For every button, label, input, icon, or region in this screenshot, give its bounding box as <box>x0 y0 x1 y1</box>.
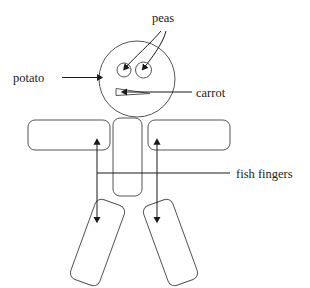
label-carrot: carrot <box>196 86 226 100</box>
label-potato: potato <box>13 71 44 85</box>
arm-left-fish-finger-shape <box>28 120 110 150</box>
eye-right-pea-shape <box>136 62 152 78</box>
eye-left-pea-shape <box>117 63 131 77</box>
head-potato-shape <box>99 41 175 117</box>
peas-leader-left <box>127 31 162 67</box>
label-peas: peas <box>152 11 174 25</box>
leg-right-fish-finger-shape <box>141 197 199 287</box>
arm-right-fish-finger-shape <box>148 120 230 150</box>
label-fish-fingers: fish fingers <box>236 167 293 181</box>
torso-shape <box>113 118 142 196</box>
food-figure-diagram: peas potato carrot fish fingers <box>0 0 310 288</box>
diagram-canvas: peas potato carrot fish fingers <box>0 0 310 288</box>
peas-leader-right <box>145 31 166 67</box>
